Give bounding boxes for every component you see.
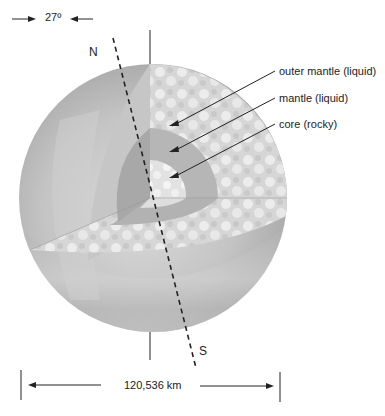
tilt-angle-label: 27º <box>45 12 61 23</box>
tilt-arrow-left-icon <box>70 16 78 22</box>
tilt-arrow-right-icon <box>28 16 36 22</box>
dimension-arrow-left-icon <box>28 382 36 388</box>
layer-label-core: core (rocky) <box>279 119 337 130</box>
layer-label-outer-mantle: outer mantle (liquid) <box>279 66 376 77</box>
dimension-arrow-right-icon <box>266 383 274 389</box>
layer-label-mantle: mantle (liquid) <box>279 93 348 104</box>
north-pole-label: N <box>89 46 98 58</box>
south-pole-label: S <box>199 345 207 357</box>
diameter-label: 120,536 km <box>124 380 181 391</box>
planet-diagram <box>0 0 385 416</box>
